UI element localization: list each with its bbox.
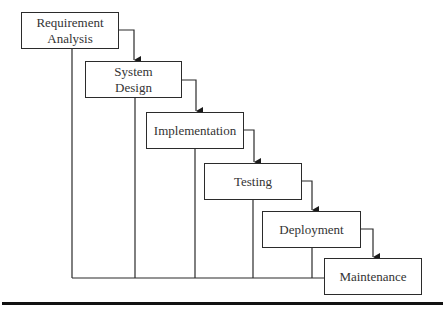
stage-maintenance: Maintenance	[324, 258, 422, 295]
stage-label: Requirement Analysis	[36, 15, 103, 47]
arrow-design-to-implementation	[182, 80, 196, 111]
arrow-deployment-to-maintenance	[361, 229, 373, 257]
stage-label: Testing	[234, 174, 272, 190]
stage-system-design: System Design	[85, 61, 182, 98]
arrow-implementation-to-testing	[244, 130, 254, 162]
stage-label: System Design	[114, 64, 152, 96]
arrow-testing-to-deployment	[302, 181, 312, 210]
stage-implementation: Implementation	[146, 112, 244, 149]
bottom-rule	[2, 302, 443, 305]
stage-deployment: Deployment	[262, 211, 361, 248]
arrow-requirement-to-design	[119, 30, 134, 60]
stage-requirement-analysis: Requirement Analysis	[21, 12, 119, 49]
stage-testing: Testing	[204, 163, 302, 200]
stage-label: Implementation	[154, 123, 236, 139]
stage-label: Deployment	[279, 222, 343, 238]
stage-label: Maintenance	[339, 269, 406, 285]
